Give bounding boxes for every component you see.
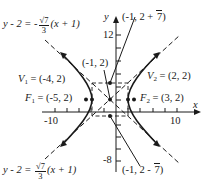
asymptote-equation-bottom: y - 2 = √73(x + 1) (3, 162, 76, 180)
conj-bottom-point (108, 114, 112, 118)
focus2-label: F2 = (3, 2) (140, 93, 184, 105)
x-axis-label: x (193, 100, 198, 111)
y-axis (113, 16, 121, 172)
y-tick-label-neg8: -8 (103, 155, 112, 166)
y-tick-label-12: 12 (103, 30, 114, 41)
x-axis (42, 108, 201, 115)
asymptote-equation-top: y - 2 = -√73(x + 1) (3, 16, 80, 34)
x-tick-label-10: 10 (170, 116, 181, 127)
focus2-point (132, 98, 136, 102)
focus1-label: F1 = (-5, 2) (25, 93, 72, 105)
conj-bottom-label: (-1, 2 - 7) (122, 165, 163, 176)
vertex1-point (90, 98, 94, 102)
fraction: √73 (35, 162, 46, 180)
fraction: √73 (39, 16, 50, 34)
y-axis-ticks (116, 35, 121, 161)
center-point (108, 98, 112, 102)
y-axis-label: y (104, 12, 109, 23)
center-label: (-1, 2) (82, 58, 108, 69)
vertex1-label: V1 = (-4, 2) (18, 74, 65, 86)
y-axis-arrow-icon (113, 16, 119, 23)
x-tick-label-neg10: -10 (44, 116, 58, 127)
focus1-point (84, 98, 88, 102)
vertex2-point (126, 98, 130, 102)
conj-top-point (108, 81, 112, 85)
vertex2-label: V2 = (2, 2) (147, 71, 191, 83)
conj-top-label: (-1, 2 + 7) (122, 12, 166, 23)
